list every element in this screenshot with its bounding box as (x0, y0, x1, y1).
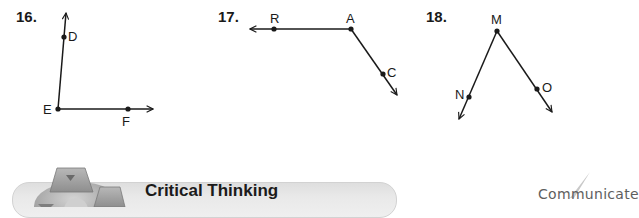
ray-ed (58, 13, 66, 109)
figure-17-angle-rac: R A C (250, 11, 397, 95)
ray-mo (497, 31, 552, 112)
point-o (534, 86, 539, 91)
point-c (380, 71, 385, 76)
label-o: O (542, 80, 552, 95)
point-f (125, 106, 130, 111)
label-c: C (387, 65, 396, 80)
point-a (348, 26, 353, 31)
ray-mn (459, 31, 497, 119)
point-d (61, 34, 66, 39)
label-m: M (491, 12, 502, 27)
point-r (271, 26, 276, 31)
figure-18-angle-nmo: M N O (455, 12, 552, 119)
point-e (55, 106, 60, 111)
communicate-label: Communicate (538, 186, 639, 202)
ray-ac (351, 29, 397, 95)
label-f: F (122, 114, 130, 129)
section-title: Critical Thinking (145, 181, 278, 201)
label-e: E (43, 102, 52, 117)
label-r: R (270, 11, 279, 26)
point-m (494, 28, 499, 33)
label-d: D (68, 29, 77, 44)
figure-16-angle-def: D E F (43, 13, 153, 129)
point-n (466, 94, 471, 99)
label-a: A (346, 11, 355, 26)
label-n: N (455, 87, 464, 102)
geometric-solids-icon (30, 166, 130, 207)
